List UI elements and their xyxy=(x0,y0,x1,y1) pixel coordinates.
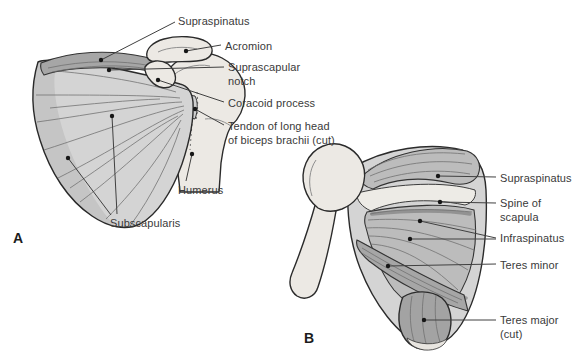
leader-dot-teres-minor xyxy=(386,264,390,268)
leader-dot-infraspinatus xyxy=(408,237,412,241)
leader-dot-supraspinatus-a xyxy=(99,58,103,62)
leader-acromion xyxy=(186,45,221,51)
leader-line-layer xyxy=(0,0,579,362)
leader-supraspinatus-b xyxy=(438,176,496,177)
diagram-canvas: ASupraspinatusAcromionSuprascapularnotch… xyxy=(0,0,579,362)
leader-dot-spine-of-scapula xyxy=(438,200,442,204)
leader-tendon-of-long-head xyxy=(195,109,224,125)
leader-subscapularis xyxy=(68,158,111,215)
leader-subscapularis xyxy=(112,116,117,214)
leader-dot-supraspinatus-b xyxy=(436,174,440,178)
leader-dot-suprascapular-notch xyxy=(107,68,111,72)
leader-dot-subscapularis xyxy=(66,156,70,160)
leader-infraspinatus xyxy=(420,221,496,238)
leader-dot-acromion xyxy=(184,49,188,53)
leader-humerus xyxy=(186,154,192,181)
leader-supraspinatus-a xyxy=(101,22,175,60)
leader-dot-humerus xyxy=(190,152,194,156)
leader-dot-tendon-of-long-head xyxy=(193,107,197,111)
leader-spine-of-scapula xyxy=(440,202,496,203)
leader-dot-coracoid-process xyxy=(156,78,160,82)
leader-dot-teres-major-cut xyxy=(422,318,426,322)
leader-teres-minor xyxy=(388,264,496,266)
leader-coracoid-process xyxy=(158,80,224,102)
leader-dot-subscapularis xyxy=(110,114,114,118)
leader-suprascapular-notch xyxy=(109,67,224,70)
leader-dot-infraspinatus xyxy=(418,219,422,223)
